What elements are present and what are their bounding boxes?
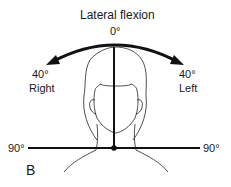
- angle-right: 40°: [32, 68, 49, 80]
- label-left: Left: [179, 82, 197, 94]
- label-right: Right: [29, 82, 55, 94]
- head-outline: [64, 47, 168, 172]
- angle-top: 0°: [110, 25, 121, 37]
- panel-label: B: [26, 164, 35, 176]
- pivot-point: [111, 145, 117, 151]
- angle-left: 40°: [179, 68, 196, 80]
- diagram-title: Lateral flexion: [80, 9, 155, 21]
- angle-horizontal-left: 90°: [8, 142, 25, 154]
- angle-horizontal-right: 90°: [203, 142, 220, 154]
